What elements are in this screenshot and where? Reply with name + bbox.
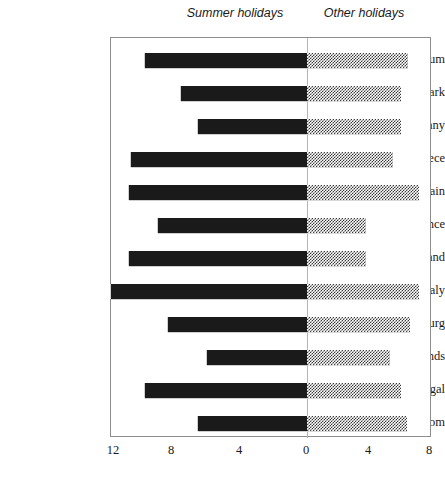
axis-tick-1: 8 <box>168 443 174 458</box>
bar-summer-portugal <box>145 383 307 398</box>
bar-other-the-netherlands <box>307 350 390 365</box>
bar-other-portugal <box>307 383 401 398</box>
bar-summer-the-netherlands <box>207 350 307 365</box>
bar-other-germany <box>307 119 401 134</box>
bar-other-united-kingdom <box>307 416 407 431</box>
bar-other-italy <box>307 284 419 299</box>
holidays-diverging-bar-chart: Summer holidays Other holidays BelgiumDe… <box>0 0 445 477</box>
bar-other-greece <box>307 152 393 167</box>
axis-tick-4: 4 <box>365 443 371 458</box>
bar-summer-greece <box>131 152 307 167</box>
bar-other-france <box>307 218 366 233</box>
bar-summer-united-kingdom <box>198 416 307 431</box>
legend-label-summer-holidays: Summer holidays <box>187 6 284 20</box>
axis-tick-3: 0 <box>303 443 309 458</box>
bar-summer-france <box>158 218 307 233</box>
bar-other-belgium <box>307 53 408 68</box>
bar-other-ireland <box>307 251 366 266</box>
bar-other-denmark <box>307 86 401 101</box>
axis-tick-5: 8 <box>426 443 432 458</box>
axis-tick-2: 4 <box>236 443 242 458</box>
bar-other-spain <box>307 185 419 200</box>
bar-other-luxemburg <box>307 317 410 332</box>
bar-summer-denmark <box>181 86 307 101</box>
plot-area <box>110 37 431 437</box>
bar-summer-italy <box>111 284 307 299</box>
axis-tick-0: 12 <box>107 443 120 458</box>
bar-summer-belgium <box>145 53 307 68</box>
bar-summer-spain <box>129 185 307 200</box>
legend-label-other-holidays: Other holidays <box>324 6 405 20</box>
bar-summer-ireland <box>129 251 307 266</box>
bar-summer-germany <box>198 119 307 134</box>
bar-summer-luxemburg <box>168 317 307 332</box>
